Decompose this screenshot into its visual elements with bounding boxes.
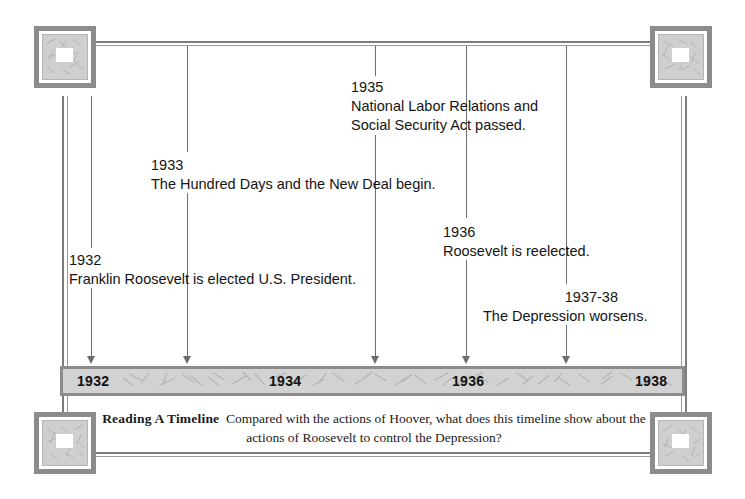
- corner-texture-panel: [42, 34, 88, 80]
- leader-line-1935: [375, 46, 376, 76]
- bar-texture-icon: [63, 369, 682, 393]
- event-text-1932: Franklin Roosevelt is elected U.S. Presi…: [69, 270, 356, 289]
- corner-texture-panel: [658, 34, 704, 80]
- event-text-1935-line1: National Labor Relations and: [351, 97, 538, 116]
- frame-bottom-rule-outer: [96, 452, 656, 454]
- axis-tick-label-1936: 1936: [452, 373, 484, 389]
- caption-title: Reading A Timeline: [102, 411, 219, 426]
- caption: Reading A Timeline Compared with the act…: [96, 409, 652, 447]
- event-text-1933: The Hundred Days and the New Deal begin.: [151, 175, 436, 194]
- corner-center-square: [56, 434, 73, 448]
- corner-center-square: [672, 434, 689, 448]
- event-year-1937-38: 1937-38: [483, 288, 618, 307]
- frame-right-rule-outer: [685, 96, 687, 414]
- axis-tick-label-1938: 1938: [635, 373, 667, 389]
- corner-ornament-bottom-right: [650, 412, 712, 474]
- event-text-1937-38: The Depression worsens.: [483, 307, 618, 326]
- leader-line-1936-lower: [466, 260, 467, 358]
- timeline-axis-bar: 1932 1934 1936 1938: [60, 366, 685, 396]
- timeline-graphic: 1935 National Labor Relations and Social…: [0, 0, 745, 499]
- arrow-marker-1935: [371, 356, 379, 364]
- event-label-1935: 1935 National Labor Relations and Social…: [351, 78, 538, 135]
- event-year-1936: 1936: [443, 223, 590, 242]
- arrow-marker-1936: [462, 356, 470, 364]
- axis-tick-label-1934: 1934: [269, 373, 301, 389]
- corner-center-square: [672, 48, 689, 62]
- event-label-1932: 1932 Franklin Roosevelt is elected U.S. …: [69, 251, 356, 289]
- leader-line-1932-lower: [91, 288, 92, 358]
- arrow-marker-1937-38: [562, 356, 570, 364]
- corner-ornament-bottom-left: [34, 412, 96, 474]
- event-text-1936: Roosevelt is reelected.: [443, 242, 590, 261]
- event-year-1932: 1932: [69, 251, 356, 270]
- frame-top-rule-outer: [96, 41, 656, 43]
- corner-texture-panel: [658, 420, 704, 466]
- caption-line-1: Compared with the actions of Hoover, wha…: [226, 411, 490, 426]
- leader-line-1937-38-lower: [566, 325, 567, 358]
- frame-top-rule-inner: [96, 45, 656, 46]
- event-label-1933: 1933 The Hundred Days and the New Deal b…: [151, 156, 436, 194]
- arrow-marker-1933: [183, 356, 191, 364]
- event-text-1935-line2: Social Security Act passed.: [351, 116, 538, 135]
- corner-center-square: [56, 48, 73, 62]
- arrow-marker-1932: [87, 356, 95, 364]
- corner-ornament-top-right: [650, 26, 712, 88]
- event-label-1936: 1936 Roosevelt is reelected.: [443, 223, 590, 261]
- event-label-1937-38: 1937-38 The Depression worsens.: [483, 288, 618, 326]
- leader-line-1932: [91, 96, 92, 248]
- corner-texture-panel: [42, 420, 88, 466]
- leader-line-1933: [187, 46, 188, 152]
- event-year-1935: 1935: [351, 78, 538, 97]
- event-year-1933: 1933: [151, 156, 436, 175]
- axis-tick-label-1932: 1932: [77, 373, 109, 389]
- corner-ornament-top-left: [34, 26, 96, 88]
- frame-bottom-rule-inner: [96, 456, 656, 457]
